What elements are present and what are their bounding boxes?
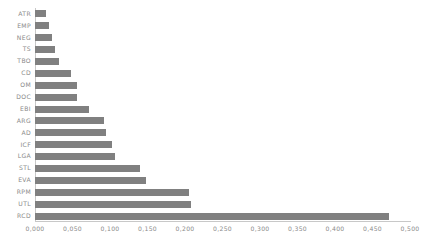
- y-axis-tick-label: DOC: [0, 94, 31, 100]
- y-axis-tick-label: ARG: [0, 118, 31, 124]
- bar-chart: ATREMPNEGTSTBOCDOMDOCEBIARGADICFLGASTLEV…: [0, 0, 436, 245]
- y-axis-tick-label: EBI: [0, 106, 31, 112]
- bar-row: [35, 163, 140, 175]
- x-axis-tick-label: 0,500: [400, 226, 419, 232]
- bar-row: [35, 91, 77, 103]
- y-axis-tick-label: UTL: [0, 201, 31, 207]
- bar: [35, 129, 106, 136]
- bar-row: [35, 56, 59, 68]
- bar-row: [35, 127, 106, 139]
- bar: [35, 22, 49, 29]
- y-axis-tick-label: RCD: [0, 213, 31, 219]
- x-axis-tick-label: 0,450: [363, 226, 382, 232]
- bar-row: [35, 186, 189, 198]
- bar-row: [35, 103, 89, 115]
- bar: [35, 46, 55, 53]
- bar: [35, 94, 77, 101]
- bar-row: [35, 20, 49, 32]
- x-axis-tick-label: 0,200: [175, 226, 194, 232]
- y-axis-tick-label: RPM: [0, 189, 31, 195]
- bar: [35, 70, 71, 77]
- bar: [35, 58, 59, 65]
- y-axis-tick-label: EMP: [0, 23, 31, 29]
- bar: [35, 201, 191, 208]
- bar: [35, 106, 89, 113]
- x-axis-tick-label: 0,400: [325, 226, 344, 232]
- y-axis-tick-label: TBO: [0, 58, 31, 64]
- y-axis-tick-label: STL: [0, 165, 31, 171]
- bar: [35, 117, 104, 124]
- bar-row: [35, 198, 191, 210]
- y-axis-tick-label: ICF: [0, 142, 31, 148]
- bar: [35, 213, 389, 220]
- bar-row: [35, 151, 115, 163]
- y-axis-tick-label: AD: [0, 130, 31, 136]
- bar-row: [35, 67, 71, 79]
- bar-row: [35, 210, 389, 222]
- bar-row: [35, 115, 104, 127]
- bar: [35, 153, 115, 160]
- y-axis-tick-labels: ATREMPNEGTSTBOCDOMDOCEBIARGADICFLGASTLEV…: [0, 8, 31, 222]
- x-axis-tick-label: 0,000: [25, 226, 44, 232]
- x-axis-tick-label: 0,050: [63, 226, 82, 232]
- x-axis-tick-label: 0,350: [288, 226, 307, 232]
- bar-row: [35, 8, 46, 20]
- y-axis-tick-label: NEG: [0, 35, 31, 41]
- y-axis-tick-label: LGA: [0, 153, 31, 159]
- x-axis-tick-label: 0,100: [100, 226, 119, 232]
- bar: [35, 82, 77, 89]
- bar-row: [35, 79, 77, 91]
- y-axis-tick-label: EVA: [0, 177, 31, 183]
- bar-row: [35, 32, 52, 44]
- x-axis-tick-label: 0,250: [213, 226, 232, 232]
- bar: [35, 10, 46, 17]
- y-axis-tick-label: ATR: [0, 11, 31, 17]
- bar: [35, 177, 146, 184]
- x-axis-tick-label: 0,150: [138, 226, 157, 232]
- bar-row: [35, 174, 146, 186]
- bar-row: [35, 44, 55, 56]
- bar-series: [35, 8, 410, 222]
- bar: [35, 165, 140, 172]
- y-axis-tick-label: OM: [0, 82, 31, 88]
- x-axis-tick-label: 0,300: [250, 226, 269, 232]
- y-axis-tick-label: TS: [0, 46, 31, 52]
- plot-area: [35, 8, 410, 222]
- bar-row: [35, 139, 112, 151]
- y-axis-tick-label: CD: [0, 70, 31, 76]
- x-axis-tick-labels: 0,0000,0500,1000,1500,2000,2500,3000,350…: [0, 226, 436, 242]
- bar: [35, 189, 189, 196]
- bar: [35, 141, 112, 148]
- bar: [35, 34, 52, 41]
